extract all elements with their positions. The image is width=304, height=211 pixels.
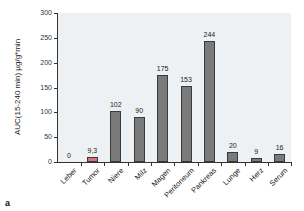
y-tick-label: 300 bbox=[40, 9, 52, 17]
x-tick bbox=[174, 163, 175, 166]
bar-peritoneum bbox=[181, 86, 192, 162]
y-tick-label: 150 bbox=[40, 84, 52, 92]
bar-value-label: 90 bbox=[127, 107, 151, 115]
plot-area bbox=[58, 13, 291, 162]
x-tick-label: Lunge bbox=[221, 166, 242, 187]
y-tick bbox=[54, 88, 57, 89]
y-tick bbox=[54, 38, 57, 39]
y-tick-label: 50 bbox=[44, 133, 52, 141]
x-tick-label: Leber bbox=[59, 166, 79, 186]
y-tick-label: 0 bbox=[48, 158, 52, 166]
bar-serum bbox=[274, 154, 285, 162]
x-tick-label: Tumor bbox=[81, 166, 102, 187]
x-tick-label: Milz bbox=[133, 166, 149, 182]
x-tick bbox=[151, 163, 152, 166]
bar-milz bbox=[134, 117, 145, 162]
y-tick bbox=[54, 13, 57, 14]
y-tick-label: 200 bbox=[40, 59, 52, 67]
x-tick bbox=[128, 163, 129, 166]
x-tick bbox=[245, 163, 246, 166]
x-tick bbox=[81, 163, 82, 166]
x-tick bbox=[221, 163, 222, 166]
x-tick bbox=[198, 163, 199, 166]
bar-value-label: 9 bbox=[244, 148, 268, 156]
bar-magen bbox=[157, 75, 168, 162]
y-tick bbox=[54, 162, 57, 163]
bar-value-label: 153 bbox=[174, 76, 198, 84]
bar-tumor bbox=[87, 157, 98, 162]
bar-value-label: 102 bbox=[104, 101, 128, 109]
bar-niere bbox=[110, 111, 121, 162]
panel-label: a bbox=[5, 198, 10, 208]
x-tick-label: Serum bbox=[267, 166, 289, 188]
y-axis-label: AUC(15-240 min) µg/g*min bbox=[13, 39, 22, 135]
x-tick bbox=[291, 163, 292, 166]
x-tick-label: Niere bbox=[106, 166, 125, 185]
bar-value-label: 0 bbox=[57, 152, 81, 160]
y-tick bbox=[54, 137, 57, 138]
y-tick bbox=[54, 112, 57, 113]
bar-value-label: 20 bbox=[221, 142, 245, 150]
bar-lunge bbox=[227, 152, 238, 162]
bar-value-label: 244 bbox=[197, 31, 221, 39]
x-tick-label: Herz bbox=[248, 166, 266, 184]
x-tick bbox=[104, 163, 105, 166]
bar-value-label: 16 bbox=[268, 144, 292, 152]
y-tick-label: 100 bbox=[40, 108, 52, 116]
bar-pankreas bbox=[204, 41, 215, 162]
bar-value-label: 9,3 bbox=[80, 147, 104, 155]
y-tick bbox=[54, 63, 57, 64]
x-tick bbox=[268, 163, 269, 166]
y-tick-label: 250 bbox=[40, 34, 52, 42]
bar-herz bbox=[251, 158, 262, 162]
y-axis bbox=[57, 13, 58, 163]
bar-value-label: 175 bbox=[151, 65, 175, 73]
